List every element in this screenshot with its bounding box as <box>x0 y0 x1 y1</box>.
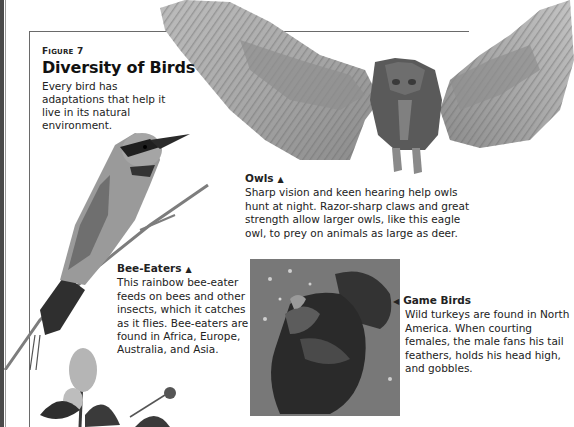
figure-description: Every bird has adaptations that help it … <box>42 80 177 132</box>
owls-heading: Owls▲ <box>245 172 470 186</box>
figure-title: Diversity of Birds <box>42 58 195 77</box>
bee-eaters-text: This rainbow bee-eater feeds on bees and… <box>117 276 248 355</box>
triangle-left-icon: ◀ <box>393 297 399 306</box>
game-birds-heading: ◀Game Birds <box>393 294 570 308</box>
triangle-up-icon: ▲ <box>185 265 191 274</box>
turkey-image <box>250 259 400 416</box>
owls-caption: Owls▲ Sharp vision and keen hearing help… <box>245 172 470 240</box>
bee-eaters-heading: Bee-Eaters▲ <box>117 262 252 276</box>
flower-image <box>25 345 185 427</box>
owls-text: Sharp vision and keen hearing help owls … <box>245 186 469 238</box>
game-birds-text: Wild turkeys are found in North America.… <box>405 308 569 374</box>
figure-label: FIGURE 7 <box>42 46 83 56</box>
game-birds-caption: ◀Game Birds Wild turkeys are found in No… <box>405 294 570 375</box>
triangle-up-icon: ▲ <box>277 175 283 184</box>
bee-eaters-caption: Bee-Eaters▲ This rainbow bee-eater feeds… <box>117 262 252 357</box>
